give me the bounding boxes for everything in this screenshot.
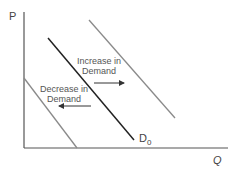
decrease-label-line1: Decrease in — [40, 84, 88, 94]
decrease-label-line2: Demand — [47, 94, 81, 104]
increase-label-line1: Increase in — [77, 56, 121, 66]
d0-label: D0 — [139, 132, 152, 147]
y-axis-label: P — [9, 10, 16, 22]
diagram-canvas: P Q D0 Increase in Demand Decrease in De… — [0, 0, 235, 172]
x-axis-label: Q — [213, 154, 222, 166]
demand-shift-diagram: P Q D0 Increase in Demand Decrease in De… — [0, 0, 235, 172]
increase-label-line2: Demand — [82, 66, 116, 76]
